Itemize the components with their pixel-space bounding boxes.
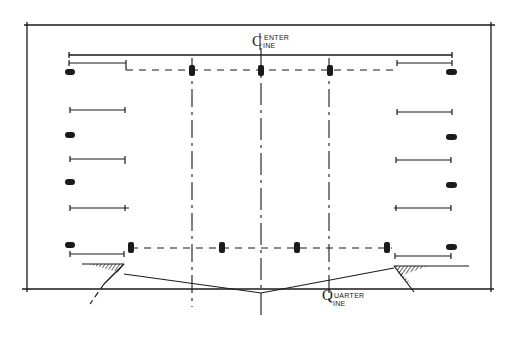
left-embankment bbox=[82, 264, 124, 304]
center-line-text-1: ENTER bbox=[264, 34, 289, 41]
bottom-row-markers bbox=[128, 242, 390, 253]
center-line-text-2: INE bbox=[263, 42, 276, 49]
quarter-line-text-2: INE bbox=[333, 300, 346, 307]
quarter-line-symbol: Q bbox=[322, 287, 333, 303]
quarter-line-label: Q UARTER INE bbox=[322, 287, 364, 307]
quarter-line-text-1: UARTER bbox=[334, 292, 364, 299]
center-line-symbol: C bbox=[252, 33, 262, 49]
right-dimension-bars bbox=[394, 109, 452, 259]
left-dimension-bars bbox=[70, 107, 129, 257]
right-embankment bbox=[394, 266, 469, 292]
diagram-canvas: C ENTER INE Q UARTER INE bbox=[0, 0, 512, 339]
center-line-label: C ENTER INE bbox=[252, 33, 289, 50]
